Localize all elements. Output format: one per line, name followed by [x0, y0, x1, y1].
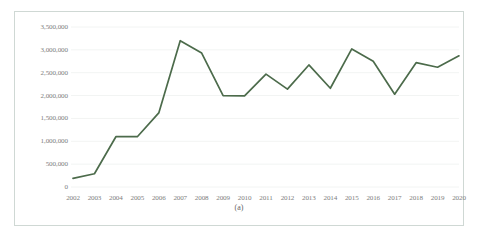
y-axis-tick-label: 3,000,000 [20, 46, 68, 54]
y-axis-tick-label: 1,000,000 [20, 137, 68, 145]
y-axis-tick-label: 1,500,000 [20, 114, 68, 122]
x-axis-tick-label: 2014 [319, 194, 341, 202]
x-axis-tick-label: 2004 [105, 194, 127, 202]
x-axis-tick-label: 2007 [169, 194, 191, 202]
x-axis-tick-label: 2019 [427, 194, 449, 202]
y-axis-tick-label: 3,500,000 [20, 23, 68, 31]
series-group [73, 41, 459, 179]
y-axis-tick-label: 2,500,000 [20, 69, 68, 77]
x-axis-tick-label: 2010 [234, 194, 256, 202]
x-axis-tick-label: 2018 [405, 194, 427, 202]
figure-caption: (a) [0, 203, 478, 212]
chart-frame: 0500,0001,000,0001,500,0002,000,0002,500… [14, 11, 464, 226]
x-axis-tick-label: 2003 [83, 194, 105, 202]
x-axis-tick-label: 2011 [255, 194, 277, 202]
x-axis-tick-label: 2013 [298, 194, 320, 202]
y-axis-tick-label: 0 [20, 183, 68, 191]
x-axis-tick-label: 2020 [448, 194, 470, 202]
x-axis-tick-label: 2015 [341, 194, 363, 202]
x-axis-tick-label: 2017 [384, 194, 406, 202]
y-axis-tick-label: 2,000,000 [20, 92, 68, 100]
gridlines-group [71, 27, 459, 187]
data-line [73, 41, 459, 179]
plot-area: 0500,0001,000,0001,500,0002,000,0002,500… [15, 12, 463, 225]
x-axis-tick-label: 2002 [62, 194, 84, 202]
x-axis-tick-label: 2012 [276, 194, 298, 202]
x-axis-tick-label: 2016 [362, 194, 384, 202]
x-axis-tick-label: 2006 [148, 194, 170, 202]
x-axis-tick-label: 2005 [126, 194, 148, 202]
x-axis-tick-label: 2008 [191, 194, 213, 202]
figure-container: 0500,0001,000,0001,500,0002,000,0002,500… [0, 0, 478, 237]
y-axis-tick-label: 500,000 [20, 160, 68, 168]
x-axis-tick-label: 2009 [212, 194, 234, 202]
